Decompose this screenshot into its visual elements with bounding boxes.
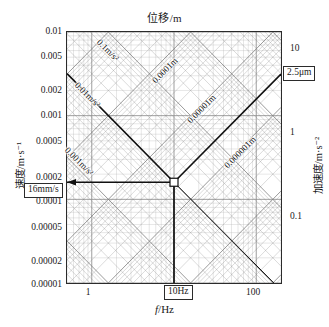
- ytick-left-0: 0.01: [14, 26, 62, 36]
- ytick-left-3: 0.001: [14, 110, 62, 120]
- ytick-right-0: 10: [290, 43, 320, 53]
- displacement-callout[interactable]: 2.5μm: [283, 66, 315, 81]
- ytick-right-1: 1: [290, 127, 320, 137]
- ytick-left-7: 0.00005: [6, 222, 62, 232]
- x-axis-title-unit: /Hz: [158, 303, 174, 315]
- ytick-left-5: 0.0002: [10, 172, 62, 182]
- xtick-0: 1: [76, 287, 100, 297]
- xtick-2: 100: [238, 287, 268, 297]
- ytick-left-1: 0.005: [14, 51, 62, 61]
- ytick-left-9: 0.00001: [6, 279, 62, 289]
- ytick-right-2: 0.1: [290, 211, 320, 221]
- ytick-left-2: 0.002: [14, 85, 62, 95]
- velocity-callout[interactable]: 16mm/s: [24, 183, 63, 198]
- plot-area: [66, 31, 282, 284]
- x-axis-title: f/Hz: [0, 303, 329, 315]
- ytick-left-4: 0.0005: [10, 136, 62, 146]
- nomograph-grid: [67, 32, 281, 283]
- top-axis-title: 位移/m: [0, 9, 329, 25]
- nomograph-figure: 位移/m 速度/m·s⁻¹ 加速度/m·s⁻² 0.01 0.005 0.002…: [0, 0, 329, 327]
- frequency-callout[interactable]: 10Hz: [164, 285, 193, 300]
- ytick-left-8: 0.00002: [6, 256, 62, 266]
